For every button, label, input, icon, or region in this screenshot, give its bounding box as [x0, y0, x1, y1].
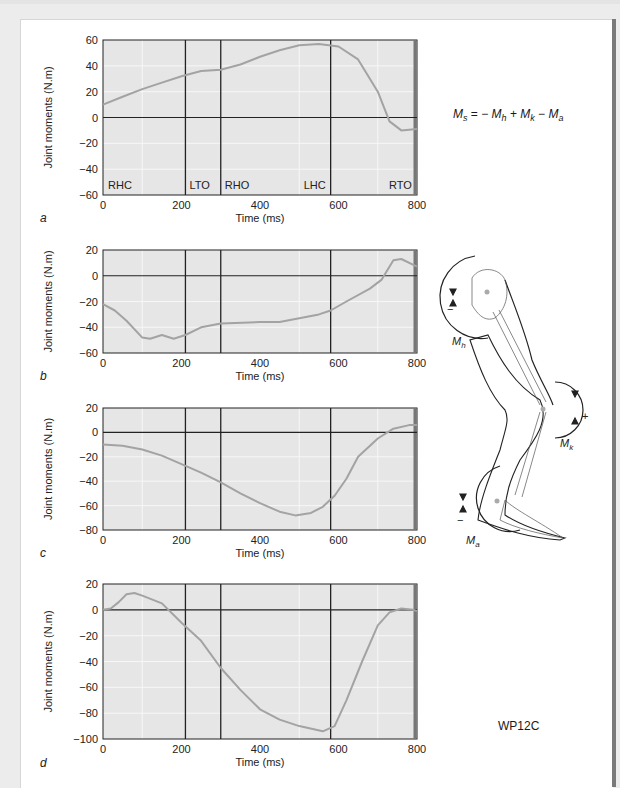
hip-joint-icon [485, 290, 490, 295]
hip-moment-arc-icon [440, 256, 488, 339]
svg-text:Mk: Mk [560, 437, 574, 452]
hip-sign: − [447, 303, 453, 315]
ankle-sign: − [457, 514, 463, 526]
knee-sign: + [582, 410, 588, 422]
svg-text:Mh: Mh [452, 335, 466, 350]
ankle-joint-icon [495, 499, 500, 504]
ankle-arrow-icon [460, 494, 466, 512]
svg-text:Ma: Ma [466, 534, 480, 549]
knee-joint-icon [541, 407, 546, 412]
figure-code: WP12C [498, 719, 539, 733]
knee-arrow-icon [572, 391, 578, 424]
